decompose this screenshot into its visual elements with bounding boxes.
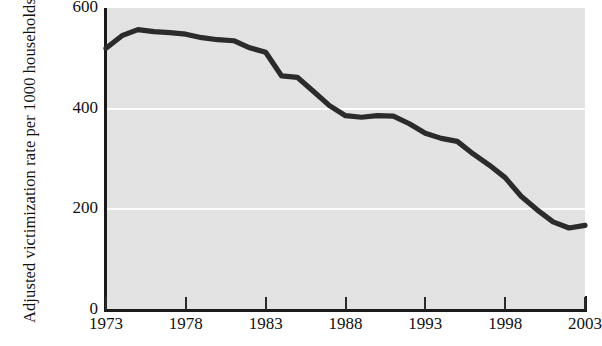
x-tick-label: 1983 bbox=[239, 314, 293, 334]
x-tick-label: 2003 bbox=[558, 314, 602, 334]
x-tick-label: 1998 bbox=[478, 314, 532, 334]
x-tick-label: 1993 bbox=[398, 314, 452, 334]
y-axis-label: Adjusted victimization rate per 1000 hou… bbox=[0, 0, 60, 320]
y-axis-label-text: Adjusted victimization rate per 1000 hou… bbox=[19, 0, 41, 323]
x-tick-label: 1988 bbox=[319, 314, 373, 334]
x-tick-label: 1978 bbox=[159, 314, 213, 334]
y-tick-label: 400 bbox=[54, 98, 98, 118]
y-tick-label: 600 bbox=[54, 0, 98, 17]
chart-container: Adjusted victimization rate per 1000 hou… bbox=[0, 0, 602, 346]
x-tick-label: 1973 bbox=[79, 314, 133, 334]
victimization-rate-line bbox=[106, 30, 585, 228]
y-tick-label: 200 bbox=[54, 198, 98, 218]
data-series-line bbox=[106, 8, 585, 310]
